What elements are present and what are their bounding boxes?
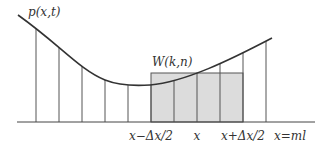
- box-label: W(k,n): [152, 55, 193, 69]
- axis-label: x+Δx/2: [221, 129, 265, 143]
- diagram-canvas: p(x,t) W(k,n) x−Δx/2xx+Δx/2x=ml: [0, 0, 332, 146]
- axis-label: x: [194, 129, 201, 143]
- axis-label: x−Δx/2: [129, 129, 173, 143]
- curve-label: p(x,t): [28, 5, 61, 19]
- riemann-diagram: p(x,t) W(k,n) x−Δx/2xx+Δx/2x=ml: [0, 0, 332, 146]
- axis-labels: x−Δx/2xx+Δx/2x=ml: [129, 129, 306, 143]
- axis-label: x=ml: [274, 129, 306, 143]
